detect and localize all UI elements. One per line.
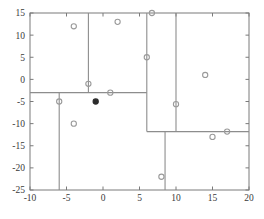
- y-tick-label: -20: [12, 163, 25, 173]
- data-point: [203, 72, 208, 77]
- data-point: [210, 134, 215, 139]
- y-tick-label: -15: [12, 141, 25, 151]
- x-tick-label: 10: [171, 193, 181, 203]
- data-point: [71, 121, 76, 126]
- x-tick-label: 5: [137, 193, 142, 203]
- data-point: [71, 24, 76, 29]
- data-point: [115, 19, 120, 24]
- y-tick-label: -10: [12, 119, 25, 129]
- tick-marks: [30, 13, 249, 190]
- x-tick-label: -5: [63, 193, 71, 203]
- scatter-plot: -10-505101520 -25-20-15-10-5051015: [0, 0, 264, 219]
- y-tick-label: 15: [16, 8, 26, 18]
- y-tick-label: 10: [16, 31, 26, 41]
- partition-lines: [30, 13, 249, 190]
- figure-container: -10-505101520 -25-20-15-10-5051015: [0, 0, 264, 219]
- x-tick-label: -10: [24, 193, 37, 203]
- data-point: [93, 99, 98, 104]
- x-tick-label: 20: [244, 193, 254, 203]
- plot-frame: [30, 13, 249, 190]
- y-tick-label: -25: [12, 185, 25, 195]
- y-axis-tick-labels: -25-20-15-10-5051015: [12, 8, 25, 195]
- data-points: [57, 10, 230, 179]
- x-tick-label: 15: [208, 193, 218, 203]
- x-tick-label: 0: [101, 193, 106, 203]
- y-tick-label: 0: [20, 75, 25, 85]
- y-tick-label: 5: [20, 53, 25, 63]
- y-tick-label: -5: [17, 97, 25, 107]
- data-point: [159, 174, 164, 179]
- x-axis-tick-labels: -10-505101520: [24, 193, 254, 203]
